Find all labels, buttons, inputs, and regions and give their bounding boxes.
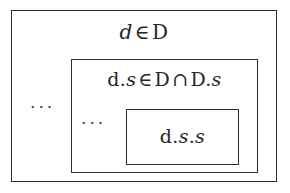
intersection-icon: ∩ (170, 68, 190, 90)
middle-set-label: d.s∈D∩D.s (72, 70, 257, 89)
middle-label-s: s (126, 68, 136, 90)
inner-label-s2: s (195, 125, 205, 147)
middle-label-set2: D. (190, 68, 211, 90)
outer-label-set: D (152, 20, 169, 44)
element-of-icon: ∈ (136, 68, 154, 90)
element-of-icon: ∈ (133, 20, 152, 44)
inner-label-s1: s (179, 125, 189, 147)
middle-ellipsis: ... (81, 110, 106, 127)
middle-label-s2: s (212, 68, 222, 90)
outer-label-element: d (119, 20, 132, 44)
outer-ellipsis: ... (30, 94, 55, 111)
middle-set-box: d.s∈D∩D.s ... d.s.s (71, 59, 258, 173)
outer-set-box: d∈D ... d.s∈D∩D.s ... d.s.s (11, 10, 277, 182)
inner-set-box: d.s.s (126, 109, 239, 165)
middle-label-d: d. (107, 68, 126, 90)
inner-label-d: d. (160, 125, 179, 147)
middle-label-set: D (155, 68, 171, 90)
inner-set-label: d.s.s (127, 127, 238, 146)
nested-set-diagram: d∈D ... d.s∈D∩D.s ... d.s.s (0, 0, 290, 193)
outer-set-label: d∈D (12, 22, 276, 42)
